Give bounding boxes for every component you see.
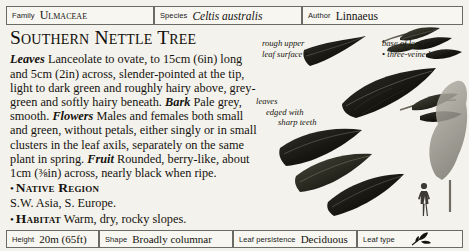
bark-heading: Bark <box>165 95 190 109</box>
leaf-type-field: Leaf type <box>357 230 463 248</box>
native-region-heading: Native Region <box>16 180 99 195</box>
leader-dot-icon: • <box>382 49 385 59</box>
description-column: Southern Nettle Tree Leaves Lanceolate t… <box>10 28 262 227</box>
leaf-persistence-field: Leaf persistence Deciduous <box>233 230 357 248</box>
leader-dot-icon: • <box>305 49 308 59</box>
fruit-heading: Fruit <box>87 152 114 166</box>
leaves-heading: Leaves <box>10 52 45 66</box>
leaf-sprig-icon <box>410 232 432 246</box>
leaf-persistence-value: Deciduous <box>301 233 348 245</box>
author-label: Author <box>308 11 331 20</box>
callout-line-3: sharp teeth <box>256 117 316 128</box>
habitat-bullet: •Habitat Warm, dry, rocky slopes. <box>10 211 262 227</box>
author-value: Linnaeus <box>336 10 378 22</box>
leaf-persistence-label: Leaf persistence <box>239 235 296 244</box>
callout-rough-upper-leaf-surface: rough upper leaf surface • <box>262 38 308 60</box>
leaf-upper-surface <box>303 36 366 66</box>
callout-leaves-sharp-teeth: leaves edged with sharp teeth <box>256 96 316 128</box>
leaf-lower-left-pair <box>279 129 372 192</box>
callout-line-1: rough upper <box>262 38 308 49</box>
species-label: Species <box>160 11 187 20</box>
scale-figure <box>418 183 430 216</box>
author-field: Author Linnaeus <box>302 6 463 25</box>
family-field: Family Ulmaceae <box>6 6 154 25</box>
shape-field: Shape Broadly columnar <box>99 230 233 248</box>
callout-line-2: • three-veined <box>382 49 430 60</box>
callout-base-three-veined: base of leaf is • three-veined <box>382 38 430 60</box>
family-value: Ulmaceae <box>40 8 87 23</box>
height-field: Height 20m (65ft) <box>6 230 99 248</box>
bullet-icon: • <box>10 182 14 194</box>
habitat-detail: Warm, dry, rocky slopes. <box>61 212 186 226</box>
callout-line-2: edged with <box>256 107 316 118</box>
family-label: Family <box>12 11 35 20</box>
species-description: Leaves Lanceolate to ovate, to 15cm (6in… <box>10 52 262 180</box>
shape-value: Broadly columnar <box>132 233 212 245</box>
native-region-detail: S.W. Asia, S. Europe. <box>10 196 262 211</box>
shape-label: Shape <box>105 235 127 244</box>
leaf-lower-centre <box>327 174 404 216</box>
page-title: Southern Nettle Tree <box>10 28 262 48</box>
callout-line-2: leaf surface • <box>262 49 308 60</box>
species-value: Celtis australis <box>192 10 262 22</box>
species-field: Species Celtis australis <box>154 6 302 25</box>
height-value: 20m (65ft) <box>39 233 86 245</box>
habitat-heading: Habitat <box>16 211 61 226</box>
flowers-heading: Flowers <box>52 109 93 123</box>
callout-line-1: leaves <box>256 96 316 107</box>
bullet-icon: • <box>10 213 14 225</box>
callout-line-1: base of leaf is <box>382 38 430 49</box>
species-reference-card: Family Ulmaceae Species Celtis australis… <box>0 0 469 251</box>
leaf-toothed-main <box>342 68 436 118</box>
leaf-type-label: Leaf type <box>363 235 395 244</box>
height-label: Height <box>12 235 34 244</box>
native-region-bullet: •Native Region <box>10 180 262 196</box>
